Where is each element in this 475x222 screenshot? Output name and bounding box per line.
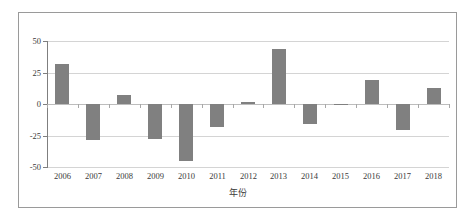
y-axis-tick (43, 73, 47, 74)
x-axis-tick-label: 2013 (263, 172, 294, 181)
x-axis-title: 年份 (0, 186, 475, 199)
chart-figure: 50250-25-50 2006200720082009201020112012… (0, 0, 475, 222)
y-axis-tick-label: -50 (20, 163, 41, 172)
x-axis-tick-label: 2017 (387, 172, 418, 181)
zero-gridline (47, 104, 449, 105)
bar (241, 102, 255, 104)
y-axis-tick (43, 41, 47, 42)
y-axis-tick-label: -25 (20, 132, 41, 141)
x-axis-tick (202, 104, 203, 108)
y-axis-tick-label: 25 (20, 69, 41, 78)
x-axis-tick (418, 104, 419, 108)
x-axis-tick-label: 2016 (356, 172, 387, 181)
bar (179, 104, 193, 161)
gridline (47, 41, 449, 42)
x-axis-tick-label: 2009 (140, 172, 171, 181)
bar (86, 104, 100, 140)
x-axis-tick-label: 2010 (171, 172, 202, 181)
bar (117, 95, 131, 104)
x-axis-tick (233, 104, 234, 108)
bar (210, 104, 224, 127)
bar (272, 49, 286, 104)
bar (365, 80, 379, 104)
x-axis-tick-label: 2006 (47, 172, 78, 181)
x-axis-tick (325, 104, 326, 108)
x-axis-tick (294, 104, 295, 108)
y-axis-tick-label: 50 (20, 37, 41, 46)
x-axis-tick-label: 2008 (109, 172, 140, 181)
x-axis-tick (387, 104, 388, 108)
bar (303, 104, 317, 124)
x-axis-tick (171, 104, 172, 108)
x-axis-tick-label: 2011 (202, 172, 233, 181)
x-axis-tick (263, 104, 264, 108)
x-axis-tick-label: 2014 (294, 172, 325, 181)
gridline (47, 167, 449, 168)
y-axis-tick-label: 0 (20, 100, 41, 109)
bar (396, 104, 410, 130)
x-axis-tick (356, 104, 357, 108)
x-axis-tick (47, 104, 48, 108)
x-axis-tick (140, 104, 141, 108)
gridline (47, 73, 449, 74)
x-axis-tick-label: 2015 (325, 172, 356, 181)
x-axis-tick (78, 104, 79, 108)
gridline (47, 136, 449, 137)
x-axis-tick-label: 2007 (78, 172, 109, 181)
x-axis-tick-label: 2018 (418, 172, 449, 181)
x-axis-tick-label: 2012 (233, 172, 264, 181)
y-axis-tick (43, 136, 47, 137)
bar (427, 88, 441, 104)
bar (148, 104, 162, 139)
bar (55, 64, 69, 104)
bar (334, 104, 348, 105)
x-axis-tick (109, 104, 110, 108)
y-axis-tick (43, 167, 47, 168)
x-axis-tick (449, 104, 450, 108)
